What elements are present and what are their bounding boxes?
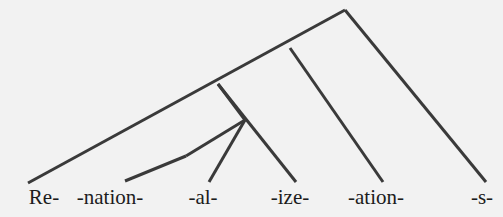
branch-root-to-left-spine [28,10,345,183]
branch-node2-to-ation [290,48,383,182]
morphological-tree-figure: Re- -nation- -al- -ize- -ation- -s- [0,0,503,217]
leaf-label-ize: -ize- [271,187,309,208]
branch-node3-stem [218,84,245,120]
branch-group [28,10,486,183]
leaf-label-al: -al- [188,187,217,208]
leaf-label-re: Re- [29,187,59,208]
leaf-label-nation: -nation- [77,187,143,208]
leaf-label-s: -s- [471,187,493,208]
branch-node5-to-nation [125,156,186,181]
leaf-label-ation: -ation- [348,187,404,208]
tree-branch-canvas [0,0,503,217]
